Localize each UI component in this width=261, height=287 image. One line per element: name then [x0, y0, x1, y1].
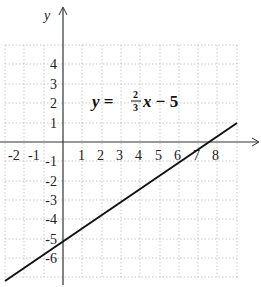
y-tick-labels: 4 3 2 1 -1 -2 -3 -4 -5 -6 — [45, 57, 57, 266]
svg-text:-3: -3 — [45, 193, 57, 208]
svg-text:3: 3 — [116, 148, 123, 163]
svg-text:2: 2 — [50, 96, 57, 111]
svg-text:-1: -1 — [45, 154, 57, 169]
svg-text:1: 1 — [50, 116, 57, 131]
svg-text:3: 3 — [133, 102, 138, 113]
svg-text:2: 2 — [133, 89, 138, 100]
svg-text:-1: -1 — [28, 148, 40, 163]
svg-text:1: 1 — [78, 148, 85, 163]
svg-text:5: 5 — [155, 148, 162, 163]
svg-text:-5: -5 — [45, 232, 57, 247]
equation-label: y = 2 3 x − 5 — [90, 89, 178, 113]
svg-text:y =: y = — [90, 92, 113, 111]
svg-text:8: 8 — [212, 148, 219, 163]
svg-text:-4: -4 — [45, 212, 57, 227]
svg-text:2: 2 — [97, 148, 104, 163]
svg-text:3: 3 — [50, 77, 57, 92]
svg-text:-2: -2 — [45, 174, 57, 189]
svg-text:-2: -2 — [8, 148, 20, 163]
svg-text:4: 4 — [135, 148, 142, 163]
svg-text:4: 4 — [50, 57, 57, 72]
y-axis-label: y — [42, 8, 51, 23]
coordinate-graph: y -2 -1 1 2 3 4 5 6 7 8 4 3 2 1 -1 -2 -3… — [0, 0, 261, 287]
svg-text:x − 5: x − 5 — [142, 92, 178, 111]
